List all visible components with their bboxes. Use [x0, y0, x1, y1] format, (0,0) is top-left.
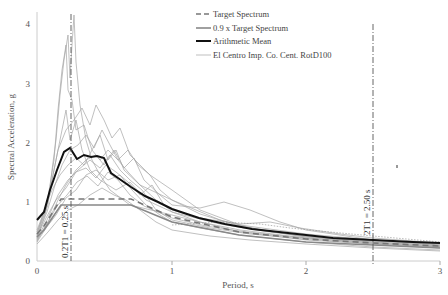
x-tick-2: 2	[304, 266, 309, 276]
stray-mark	[396, 165, 398, 168]
y-tick-4: 4	[26, 19, 31, 29]
svg-text:Target Spectrum: Target Spectrum	[213, 9, 270, 19]
legend-item-records: El Centro Imp. Co. Cent. RotD100	[196, 50, 332, 60]
y-tick-2: 2	[26, 138, 31, 148]
x-tick-0: 0	[35, 266, 40, 276]
legend-item-target: Target Spectrum	[196, 9, 270, 19]
y-axis-title: Spectral Acceleration, g	[6, 93, 16, 180]
legend-item-mean: Arithmetic Mean	[196, 36, 272, 46]
x-tick-labels: 0 1 2 3	[35, 266, 443, 276]
legend-item-scaled-target: 0.9 x Target Spectrum	[196, 23, 288, 33]
svg-text:Arithmetic Mean: Arithmetic Mean	[213, 36, 272, 46]
high-period-annotation: 2T1 = 2.50 s	[362, 189, 372, 235]
y-tick-3: 3	[26, 79, 31, 89]
legend: Target Spectrum 0.9 x Target Spectrum Ar…	[196, 9, 332, 60]
svg-text:0.9 x Target Spectrum: 0.9 x Target Spectrum	[213, 23, 288, 33]
y-tick-0: 0	[26, 256, 31, 266]
low-period-annotation: 0.2T1 = 0.25 s	[60, 205, 70, 258]
x-axis-title: Period, s	[222, 280, 254, 290]
x-tick-3: 3	[438, 266, 443, 276]
y-tick-1: 1	[26, 197, 31, 207]
y-tick-labels: 0 1 2 3 4	[26, 19, 31, 266]
response-spectrum-chart: 0 1 2 3 4 0 1 2 3 Period, s Spectral Acc…	[0, 0, 448, 295]
x-tick-1: 1	[170, 266, 175, 276]
x-tick-marks	[172, 261, 440, 265]
arithmetic-mean-line	[37, 148, 440, 243]
svg-text:El Centro Imp. Co. Cent. RotD1: El Centro Imp. Co. Cent. RotD100	[213, 50, 332, 60]
